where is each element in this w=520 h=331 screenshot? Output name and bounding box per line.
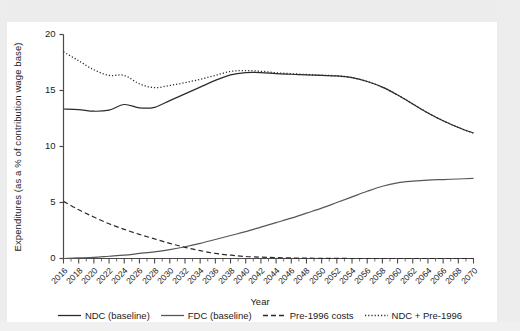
series-layer — [64, 52, 474, 259]
y-tick-label: 5 — [30, 196, 56, 207]
legend-label: NDC + Pre-1996 — [392, 310, 463, 321]
y-tick-label: 20 — [30, 28, 56, 39]
legend-label: FDC (baseline) — [188, 310, 252, 321]
legend-swatch-solid — [161, 311, 184, 320]
chart-page: Expenditures (as a % of contribution wag… — [0, 0, 520, 331]
legend-label: Pre-1996 costs — [290, 310, 354, 321]
series-line-ndc-pre-1996 — [64, 52, 474, 133]
y-tick-label: 0 — [30, 252, 56, 263]
axis-layer — [60, 35, 474, 264]
legend-item: NDC (baseline) — [58, 310, 150, 321]
legend-label: NDC (baseline) — [85, 310, 150, 321]
series-line-ndc-baseline — [64, 72, 474, 133]
legend-swatch-dotted — [365, 311, 388, 320]
legend-item: FDC (baseline) — [161, 310, 252, 321]
chart-legend: NDC (baseline)FDC (baseline)Pre-1996 cos… — [0, 310, 520, 321]
series-line-fdc-baseline — [64, 178, 474, 258]
y-tick-label: 15 — [30, 84, 56, 95]
x-axis-title: Year — [0, 296, 520, 307]
y-tick-label: 10 — [30, 140, 56, 151]
legend-swatch-dashed — [263, 311, 286, 320]
legend-swatch-solid — [58, 311, 81, 320]
series-line-pre-1996-costs — [64, 201, 474, 258]
legend-item: NDC + Pre-1996 — [365, 310, 463, 321]
legend-item: Pre-1996 costs — [263, 310, 354, 321]
